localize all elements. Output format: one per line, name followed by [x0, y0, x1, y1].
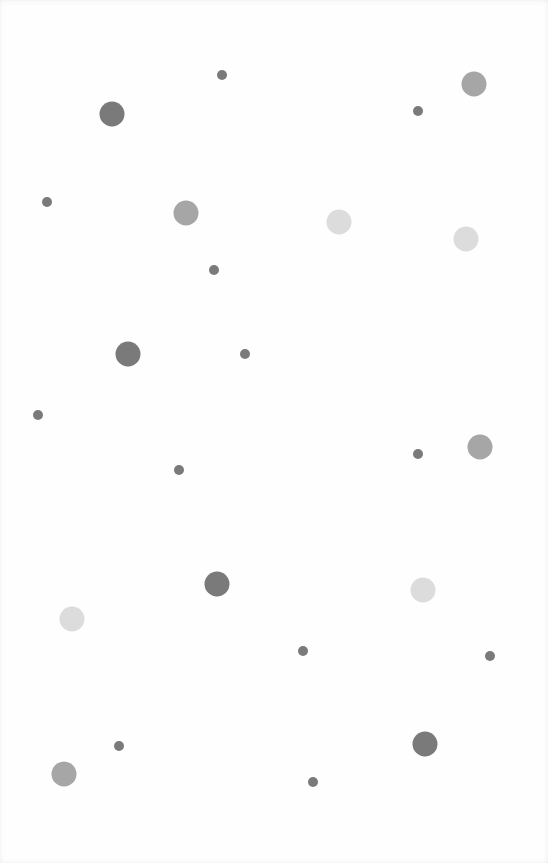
circle-large-medium[interactable]: [468, 435, 493, 460]
circle-large-light[interactable]: [454, 227, 479, 252]
circle-small-dark[interactable]: [413, 449, 423, 459]
game-board[interactable]: [0, 0, 548, 863]
circle-small-dark[interactable]: [298, 646, 308, 656]
circle-small-dark[interactable]: [33, 410, 43, 420]
circle-small-dark[interactable]: [485, 651, 495, 661]
circle-small-dark[interactable]: [217, 70, 227, 80]
circle-small-dark[interactable]: [42, 197, 52, 207]
circle-large-dark[interactable]: [100, 102, 125, 127]
circle-small-dark[interactable]: [308, 777, 318, 787]
circle-small-dark[interactable]: [240, 349, 250, 359]
circle-large-medium[interactable]: [52, 762, 77, 787]
circle-large-dark[interactable]: [116, 342, 141, 367]
circle-large-light[interactable]: [327, 210, 352, 235]
circle-small-dark[interactable]: [114, 741, 124, 751]
circle-large-dark[interactable]: [413, 732, 438, 757]
circle-small-dark[interactable]: [413, 106, 423, 116]
circle-large-light[interactable]: [60, 607, 85, 632]
circle-large-light[interactable]: [411, 578, 436, 603]
circle-small-dark[interactable]: [174, 465, 184, 475]
circle-small-dark[interactable]: [209, 265, 219, 275]
circle-large-medium[interactable]: [462, 72, 487, 97]
circle-large-medium[interactable]: [174, 201, 199, 226]
circle-large-dark[interactable]: [205, 572, 230, 597]
